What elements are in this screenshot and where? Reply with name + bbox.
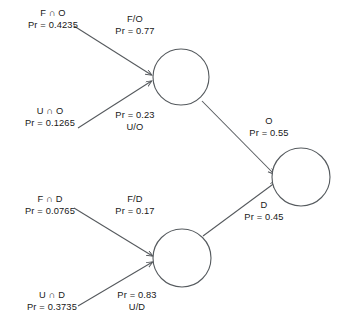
label-u-given-d-line1: Pr = 0.83 bbox=[96, 290, 178, 302]
label-o-branch-line2: Pr = 0.55 bbox=[231, 128, 307, 140]
label-u-and-d: U ∩ D Pr = 0.3735 bbox=[6, 290, 98, 313]
label-o-branch-line1: O bbox=[231, 116, 307, 128]
label-f-given-o-line2: Pr = 0.77 bbox=[96, 26, 174, 38]
label-f-and-o-line1: F ∩ O bbox=[10, 8, 96, 20]
label-u-given-o-line1: Pr = 0.23 bbox=[97, 110, 173, 122]
label-f-and-o-line2: Pr = 0.4235 bbox=[10, 20, 96, 32]
label-d-branch: D Pr = 0.45 bbox=[226, 200, 302, 223]
label-u-and-d-line1: U ∩ D bbox=[6, 290, 98, 302]
label-f-and-d-line1: F ∩ D bbox=[7, 194, 93, 206]
label-u-given-o: Pr = 0.23 U/O bbox=[97, 110, 173, 133]
label-u-and-o-line2: Pr = 0.1265 bbox=[6, 118, 94, 130]
label-f-given-d-line1: F/D bbox=[96, 194, 174, 206]
label-u-given-d-line2: U/D bbox=[96, 302, 178, 314]
probability-tree-diagram: F ∩ O Pr = 0.4235 F/O Pr = 0.77 U ∩ O Pr… bbox=[0, 0, 343, 327]
label-f-given-d: F/D Pr = 0.17 bbox=[96, 194, 174, 217]
label-d-branch-line1: D bbox=[226, 200, 302, 212]
label-u-and-o: U ∩ O Pr = 0.1265 bbox=[6, 106, 94, 129]
label-u-and-d-line2: Pr = 0.3735 bbox=[6, 302, 98, 314]
tree-graphics bbox=[0, 0, 343, 327]
label-f-given-d-line2: Pr = 0.17 bbox=[96, 206, 174, 218]
intermediate-node-d bbox=[153, 229, 211, 287]
label-f-and-o: F ∩ O Pr = 0.4235 bbox=[10, 8, 96, 31]
label-f-and-d-line2: Pr = 0.0765 bbox=[7, 206, 93, 218]
label-u-given-o-line2: U/O bbox=[97, 122, 173, 134]
root-node bbox=[272, 148, 330, 206]
label-u-given-d: Pr = 0.83 U/D bbox=[96, 290, 178, 313]
label-f-and-d: F ∩ D Pr = 0.0765 bbox=[7, 194, 93, 217]
label-f-given-o: F/O Pr = 0.77 bbox=[96, 14, 174, 37]
label-f-given-o-line1: F/O bbox=[96, 14, 174, 26]
intermediate-node-o bbox=[153, 49, 209, 105]
label-o-branch: O Pr = 0.55 bbox=[231, 116, 307, 139]
label-d-branch-line2: Pr = 0.45 bbox=[226, 212, 302, 224]
label-u-and-o-line1: U ∩ O bbox=[6, 106, 94, 118]
